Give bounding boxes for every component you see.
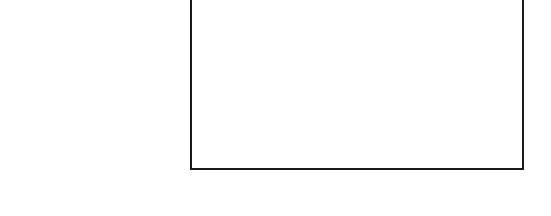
empty-canvas-panel — [190, 0, 524, 170]
